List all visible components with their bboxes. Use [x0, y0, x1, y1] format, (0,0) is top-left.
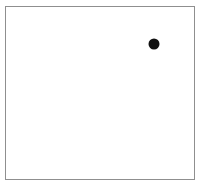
figure-root	[0, 0, 202, 186]
data-point-marker	[148, 38, 159, 49]
plot-area	[6, 7, 194, 179]
plot-frame	[5, 6, 195, 180]
